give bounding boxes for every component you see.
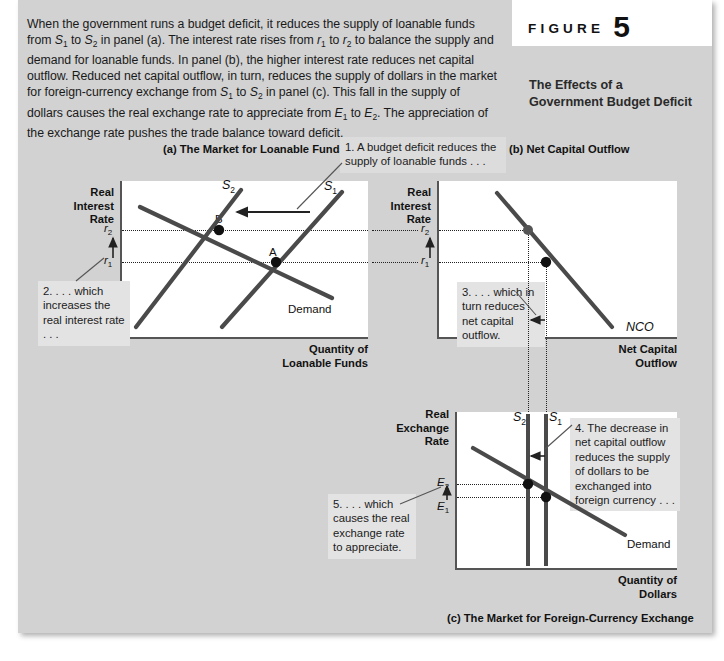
panel-c-y-axis-title: Real Exchange Rate (372, 408, 449, 449)
guide-e2 (457, 484, 529, 485)
panel-a-x-axis-line1: Quantity of (238, 343, 368, 357)
annotation-3: 3. . . . which in turn reduces net capit… (457, 282, 545, 347)
panel-b-y-axis-line2: Interest (365, 200, 431, 214)
panel-b-tick-r2: r2 (421, 222, 429, 237)
panel-b-y-axis (437, 181, 439, 339)
guide-r2-panel-a (122, 230, 368, 231)
panel-b-x-axis-line2: Outflow (567, 357, 677, 371)
guide-r1-panel-b (439, 262, 549, 263)
guide-r2-panel-b (439, 230, 531, 231)
guide-r1-bridge (372, 262, 418, 263)
figure-page: When the government runs a budget defici… (0, 0, 724, 661)
annotation-1: 1. A budget deficit reduces the supply o… (340, 137, 506, 173)
panel-b-y-axis-title: Real Interest Rate (365, 186, 431, 227)
figure-label: FIGURE5 (528, 10, 698, 44)
panel-a-point-a-label: A (269, 246, 277, 258)
panel-a-tick-r2: r2 (104, 222, 112, 237)
panel-b-curve-nco-label: NCO (626, 320, 654, 334)
panel-c-curve-s2-label: S2 (513, 410, 526, 427)
panel-c-x-axis-title: Quantity of Dollars (567, 574, 677, 601)
guide-nco1-vertical (546, 262, 547, 412)
annotation-5: 5. . . . which causes the real exchange … (328, 494, 416, 559)
panel-c-x-axis-line1: Quantity of (567, 574, 677, 588)
panel-a-curve-s1-label: S1 (324, 179, 337, 196)
panel-a-curve-demand-label: Demand (288, 303, 331, 315)
panel-b-title: (b) Net Capital Outflow (509, 143, 630, 155)
guide-e1 (457, 497, 547, 498)
panel-c-tick-e1: E1 (437, 500, 449, 515)
panel-c-curve-demand-label: Demand (627, 538, 670, 550)
panel-c-tick-e2: E2 (437, 476, 449, 491)
panel-a-x-axis (120, 337, 368, 339)
panel-c-y-axis (455, 412, 457, 570)
panel-c-y-axis-line3: Rate (372, 435, 449, 449)
panel-a-point-b-label: B (215, 213, 223, 225)
panel-b-x-axis-line1: Net Capital (567, 343, 677, 357)
guide-nco2-vertical (528, 230, 529, 412)
panel-c-y-axis-line2: Exchange (372, 422, 449, 436)
panel-a-y-axis-line1: Real (48, 186, 114, 200)
panel-b-tick-r1: r1 (421, 254, 429, 269)
panel-a-y-axis-line2: Interest (48, 200, 114, 214)
panel-a-curve-s2-label: S2 (222, 178, 235, 195)
guide-r1-panel-a (122, 262, 368, 263)
panel-c-y-axis-line1: Real (372, 408, 449, 422)
panel-b-x-axis-title: Net Capital Outflow (567, 343, 677, 370)
panel-c-x-axis-line2: Dollars (567, 588, 677, 602)
panel-c-x-axis (455, 568, 677, 570)
figure-word: FIGURE (528, 21, 604, 36)
panel-a-title: (a) The Market for Loanable Funds (163, 143, 346, 155)
panel-a-tick-r1: r1 (104, 254, 112, 269)
panel-c-title: (c) The Market for Foreign-Currency Exch… (447, 612, 694, 624)
panel-c-curve-s1-label: S1 (549, 410, 562, 427)
annotation-2: 2. . . . which increases the real intere… (38, 281, 130, 346)
figure-caption: When the government runs a budget defici… (27, 16, 497, 141)
guide-r2-bridge (372, 230, 418, 231)
panel-a-x-axis-title: Quantity of Loanable Funds (238, 343, 368, 370)
figure-title: The Effects of a Government Budget Defic… (529, 77, 694, 110)
panel-a-x-axis-line2: Loanable Funds (238, 357, 368, 371)
panel-b-y-axis-line1: Real (365, 186, 431, 200)
panel-a-y-axis-title: Real Interest Rate (48, 186, 114, 227)
annotation-4: 4. The decrease in net capital outflow r… (570, 418, 680, 511)
figure-number: 5 (613, 10, 630, 43)
